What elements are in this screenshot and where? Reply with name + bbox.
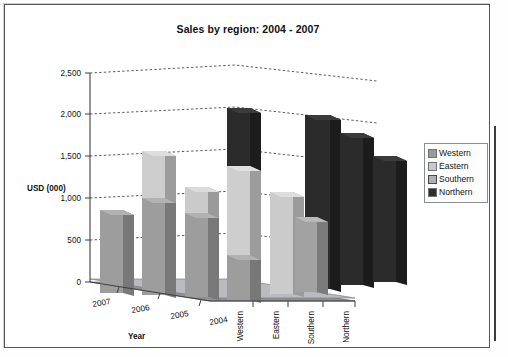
value-tick-1000: 1,000 (61, 194, 82, 203)
region-tick-eastern: Eastern (272, 311, 281, 340)
value-tick-2500: 2,500 (61, 69, 82, 78)
value-tick-2000: 2,000 (61, 110, 82, 119)
page-right-rule (494, 126, 496, 341)
bar-region-northern (373, 156, 407, 285)
legend-swatch-western (428, 149, 437, 158)
legend-item-western[interactable]: Western (428, 147, 484, 160)
legend-item-southern[interactable]: Southern (428, 173, 484, 186)
region-tick-northern: Northern (342, 311, 351, 343)
legend-item-northern[interactable]: Northern (428, 186, 484, 199)
value-axis (85, 73, 90, 282)
bar-2006-western (142, 198, 176, 298)
scanned-page-frame: Sales by region: 2004 - 2007 (4, 4, 490, 348)
year-tick-2006: 2006 (131, 303, 151, 315)
value-tick-labels: 2,500 2,000 1,500 1,000 500 0 (61, 69, 82, 287)
legend-swatch-northern (428, 188, 437, 197)
chart-legend: Western Eastern Southern Northern (424, 143, 488, 203)
region-tick-labels: Western Eastern Southern Northern (236, 311, 351, 345)
bar-region-southern (340, 133, 374, 288)
legend-label-western: Western (439, 147, 471, 160)
legend-label-northern: Northern (439, 186, 472, 199)
legend-label-eastern: Eastern (439, 160, 469, 173)
value-axis-label: USD (000) (27, 184, 66, 193)
region-tick-southern: Southern (307, 311, 316, 345)
year-tick-2005: 2005 (170, 309, 190, 321)
bar-2004-western (227, 255, 261, 303)
legend-swatch-eastern (428, 162, 437, 171)
year-tick-labels: 2007 2006 2005 2004 (92, 297, 229, 327)
value-tick-500: 500 (67, 236, 81, 245)
year-tick-2004: 2004 (209, 315, 229, 327)
category-axis-label: Year (128, 332, 146, 341)
legend-swatch-southern (428, 175, 437, 184)
region-tick-western: Western (236, 311, 245, 342)
year-tick-2007: 2007 (92, 297, 112, 309)
bar-2005-western (185, 213, 219, 300)
value-tick-1500: 1,500 (61, 152, 82, 161)
screenshot-page: Sales by region: 2004 - 2007 (0, 0, 508, 357)
chart-plot-area: 2,500 2,000 1,500 1,000 500 0 USD (000) (5, 5, 491, 349)
value-tick-0: 0 (76, 278, 81, 287)
bar-2007-western (100, 210, 134, 296)
legend-item-eastern[interactable]: Eastern (428, 160, 484, 173)
legend-label-southern: Southern (439, 173, 474, 186)
